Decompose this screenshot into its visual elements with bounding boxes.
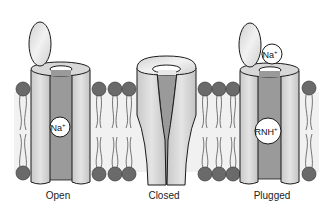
na-ion: Na+ — [262, 44, 282, 64]
inactivation-gate — [29, 22, 51, 66]
left-subunit — [31, 70, 50, 184]
right-subunit — [281, 71, 299, 184]
rnh-blocker: RNH+ — [254, 118, 281, 144]
ion-charge: + — [62, 122, 66, 128]
inactivation-gate — [239, 23, 261, 67]
ion-charge: + — [274, 49, 278, 55]
label-closed: Closed — [148, 190, 179, 201]
na-ion: Na+ — [50, 117, 70, 137]
ion-charge: + — [274, 126, 278, 132]
sodium-channel-diagram: Na+ Na+ RNH+ Open Close — [0, 0, 329, 210]
ion-label: RNH — [254, 127, 274, 137]
label-open: Open — [46, 190, 70, 201]
ion-label: Na — [262, 50, 274, 60]
right-subunit — [72, 70, 90, 184]
label-plugged: Plugged — [254, 190, 291, 201]
channel-open: Na+ — [29, 22, 90, 184]
ion-label: Na — [50, 123, 62, 133]
channel-plugged: Na+ RNH+ — [239, 23, 299, 184]
